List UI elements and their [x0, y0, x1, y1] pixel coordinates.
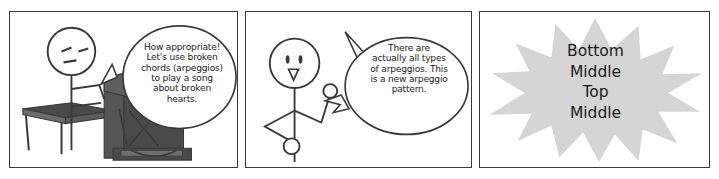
starburst-icon [490, 18, 702, 162]
stick-figure-pianist-icon [48, 28, 105, 150]
speech-bubble-2-icon [325, 32, 468, 135]
comic-strip: How appropriate! Let's use broken chords… [0, 0, 719, 179]
panel-1-artwork [10, 12, 237, 167]
comic-panel-2: There are actually all types of arpeggio… [245, 11, 472, 168]
comic-panel-1: How appropriate! Let's use broken chords… [9, 11, 238, 168]
panel-2-artwork [246, 12, 471, 167]
comic-panel-3: Bottom Middle Top Middle [479, 11, 710, 168]
piano-bench-icon [23, 103, 114, 154]
panel-3-artwork [480, 12, 709, 167]
